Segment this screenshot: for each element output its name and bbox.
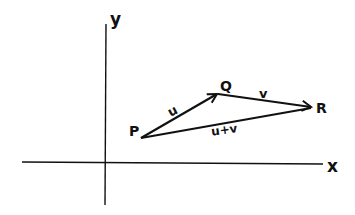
y-axis <box>105 24 106 205</box>
y-axis-label: y <box>110 9 121 29</box>
point-p-label: P <box>129 123 139 139</box>
point-q-label: Q <box>220 78 232 94</box>
x-axis <box>22 162 323 164</box>
vector-v-label: v <box>259 86 268 101</box>
x-axis-label: x <box>327 156 338 176</box>
vector-u-plus-v-label: u+v <box>210 121 238 139</box>
point-r-label: R <box>316 100 327 116</box>
vector-diagram: y x P Q R u v u+v <box>0 0 355 215</box>
